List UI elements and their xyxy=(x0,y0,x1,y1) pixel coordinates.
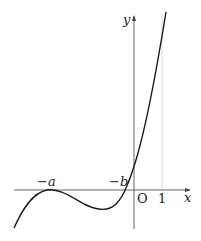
function-graph: y x O 1 −a −b xyxy=(0,0,201,241)
tick-label-neg-b: −b xyxy=(109,174,128,189)
y-axis-label: y xyxy=(122,12,131,27)
tick-label-one: 1 xyxy=(158,191,166,206)
tick-label-neg-a: −a xyxy=(37,174,56,189)
x-axis-label: x xyxy=(184,190,192,205)
origin-label: O xyxy=(137,191,148,206)
